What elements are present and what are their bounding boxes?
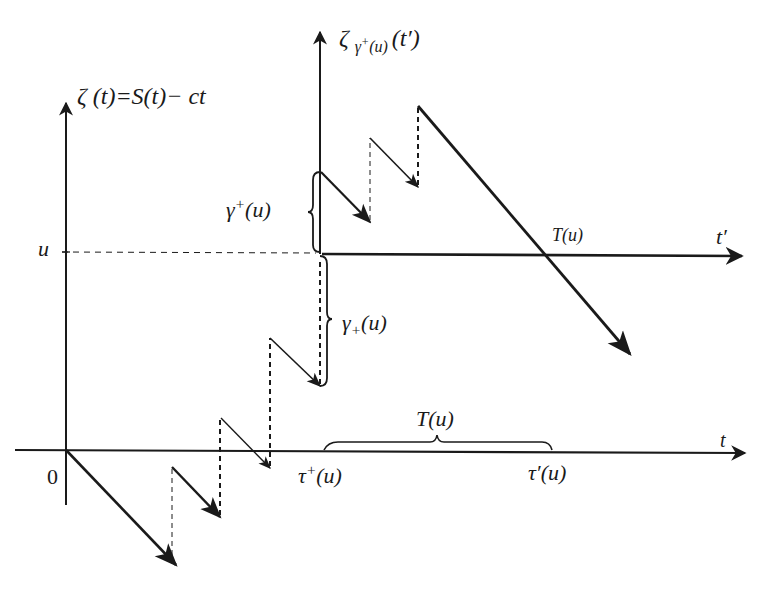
- u-level-label: u: [38, 238, 49, 260]
- path-segment-5: [321, 172, 370, 222]
- t-axis: [15, 450, 745, 453]
- zeta-eq-S: =S: [115, 83, 143, 109]
- zeta-shifted-arg: (t′): [392, 25, 420, 51]
- tau-prime-symbol: τ′: [528, 460, 541, 485]
- gamma-sub-plus-brace: [320, 256, 332, 386]
- gamma-sub-plus-arg: (u): [361, 310, 387, 335]
- zeta-tail: − ct: [166, 83, 206, 109]
- T-symbol: T: [552, 225, 562, 245]
- T-arg: (u): [562, 225, 583, 245]
- diagram-canvas: ζ (t)=S(t)− ct ζ γ+(u) (t′) u 0 t t′ γ+(…: [0, 0, 776, 595]
- tau-plus-label: τ+(u): [298, 462, 342, 487]
- path-segment-4: [270, 338, 320, 386]
- t-axis-label: t: [720, 430, 726, 450]
- gamma-plus-label: γ+(u): [226, 196, 271, 221]
- zeta-arg: (t): [93, 83, 116, 109]
- t-prime-axis: [322, 254, 742, 256]
- tau-plus-symbol: τ: [298, 463, 306, 488]
- zeta-shifted-sub-plus: +: [361, 34, 369, 48]
- T-on-tprime-label: T(u): [552, 226, 583, 244]
- path-segment-7: [418, 106, 630, 354]
- T-brace-label: T(u): [416, 408, 454, 430]
- gamma-plus-superscript: +: [235, 195, 245, 212]
- tau-plus-arg: (u): [316, 463, 342, 488]
- T-brace-symbol: T: [416, 406, 428, 431]
- gamma-plus-symbol: γ: [226, 197, 235, 222]
- zeta-shifted-sub-arg: (u): [369, 38, 388, 55]
- zeta-symbol: ζ: [77, 83, 87, 109]
- zeta-main-label: ζ (t)=S(t)− ct: [77, 84, 206, 108]
- gamma-sub-plus-label: γ+(u): [342, 312, 387, 338]
- tau-prime-label: τ′(u): [528, 462, 566, 484]
- path-segment-1: [66, 450, 176, 565]
- gamma-plus-arg: (u): [245, 197, 271, 222]
- origin-label: 0: [47, 466, 58, 488]
- cropped-caption-fragment: [205, 0, 595, 2]
- zeta-shifted-symbol: ζ: [339, 25, 349, 51]
- tau-prime-arg: (u): [541, 460, 567, 485]
- path-segment-2: [172, 467, 220, 517]
- zeta-shifted-label: ζ γ+(u) (t′): [339, 26, 420, 55]
- T-brace: [324, 435, 552, 450]
- gamma-sub-plus-symbol: γ: [342, 310, 351, 335]
- t-prime-axis-label: t′: [716, 226, 727, 248]
- path-segment-3: [221, 418, 270, 468]
- zeta-arg2: (t): [144, 83, 167, 109]
- T-brace-arg: (u): [428, 406, 454, 431]
- u-level-dashed-line: [62, 252, 316, 253]
- tau-plus-superscript: +: [306, 461, 316, 478]
- gamma-sub-plus-subscript: +: [351, 321, 361, 338]
- path-segment-6: [370, 138, 418, 187]
- gamma-plus-brace: [308, 172, 320, 252]
